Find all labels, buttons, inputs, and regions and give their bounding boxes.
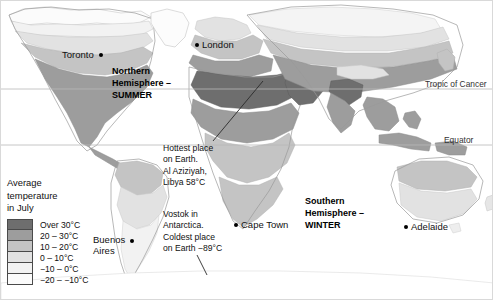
season-line-1: Northern xyxy=(112,65,171,77)
place-dot-cape-town xyxy=(234,223,238,227)
place-label-toronto: Toronto xyxy=(62,49,94,60)
season-label-northern-summer: Northern Hemisphere – SUMMER xyxy=(112,65,171,101)
season-line-1: Southern xyxy=(305,195,364,207)
legend-item-label: −20 – −10°C xyxy=(40,275,88,285)
annotation-line-3: Coldest place xyxy=(163,232,222,243)
legend-item-label: Over 30°C xyxy=(40,220,80,230)
season-line-2: Hemisphere – xyxy=(305,207,364,219)
landmass-greenland xyxy=(151,9,189,47)
legend-swatch xyxy=(7,230,33,241)
equator-label: Equator xyxy=(444,135,473,145)
legend-swatch xyxy=(7,241,33,252)
legend: Average temperature in July Over 30°C 20… xyxy=(7,177,135,285)
annotation-line-3: Al Aziziyah, xyxy=(163,166,213,177)
legend-swatch xyxy=(7,263,33,274)
legend-title-line-3: in July xyxy=(7,202,135,215)
annotation-line-1: Vostok in xyxy=(163,209,222,220)
annotation-line-4: Libya 58°C xyxy=(163,177,213,188)
tropic-of-cancer-label: Tropic of Cancer xyxy=(425,79,487,89)
legend-item: −10 – 0°C xyxy=(7,263,135,274)
place-dot-london xyxy=(195,43,199,47)
season-line-3: WINTER xyxy=(305,219,364,231)
place-label-london: London xyxy=(202,39,234,50)
landmass-indonesia xyxy=(379,133,431,151)
season-line-2: Hemisphere – xyxy=(112,77,171,89)
annotation-line-2: on Earth. xyxy=(163,154,213,165)
legend-item-label: 20 – 30°C xyxy=(40,231,78,241)
legend-item-label: −10 – 0°C xyxy=(40,264,79,274)
season-label-southern-winter: Southern Hemisphere – WINTER xyxy=(305,195,364,231)
landmass-philippines xyxy=(403,111,421,129)
landmass-tasmania xyxy=(449,223,461,233)
place-label-cape-town: Cape Town xyxy=(241,219,288,230)
annotation-line-4: on Earth −89°C xyxy=(163,243,222,254)
legend-item: −20 – −10°C xyxy=(7,274,135,285)
landmass-southeast-asia xyxy=(363,97,399,131)
legend-items: Over 30°C 20 – 30°C 10 – 20°C 0 – 10°C −… xyxy=(7,219,135,285)
place-dot-toronto xyxy=(99,53,103,57)
legend-title-line-1: Average xyxy=(7,177,135,190)
legend-item: 10 – 20°C xyxy=(7,241,135,252)
annotation-line-2: Antarctica. xyxy=(163,220,222,231)
legend-item: Over 30°C xyxy=(7,219,135,230)
temperature-map: Tropic of Cancer Equator Toronto London … xyxy=(0,0,493,300)
legend-swatch xyxy=(7,274,33,285)
legend-title: Average temperature in July xyxy=(7,177,135,215)
legend-item: 20 – 30°C xyxy=(7,230,135,241)
annotation-hottest-place: Hottest place on Earth. Al Aziziyah, Lib… xyxy=(163,143,213,189)
legend-item: 0 – 10°C xyxy=(7,252,135,263)
place-label-adelaide: Adelaide xyxy=(411,221,448,232)
annotation-line-1: Hottest place xyxy=(163,143,213,154)
legend-item-label: 10 – 20°C xyxy=(40,242,78,252)
legend-swatch xyxy=(7,252,33,263)
annotation-coldest-place: Vostok in Antarctica. Coldest place on E… xyxy=(163,209,222,255)
place-dot-adelaide xyxy=(404,225,408,229)
season-line-3: SUMMER xyxy=(112,89,171,101)
legend-swatch xyxy=(7,219,33,230)
legend-item-label: 0 – 10°C xyxy=(40,253,74,263)
landmass-new-zealand xyxy=(485,195,493,211)
legend-title-line-2: temperature xyxy=(7,190,135,203)
